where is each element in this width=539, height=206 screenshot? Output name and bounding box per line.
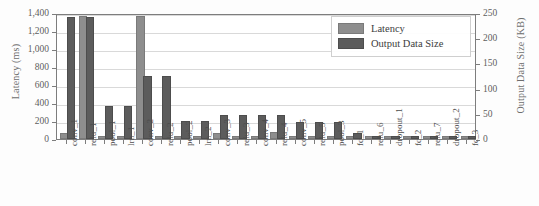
x-tick-mark: [352, 140, 353, 144]
y-tick-mark-left: [52, 32, 56, 33]
y-tick-label-left: 200: [5, 117, 49, 127]
x-tick-mark: [466, 140, 467, 144]
y-tick-label-right: 50: [483, 110, 523, 120]
x-tick-label: relu_1: [88, 122, 98, 146]
x-tick-label: fc_2: [413, 130, 423, 146]
y-tick-label-right: 150: [483, 59, 523, 69]
legend-label-output-data-size: Output Data Size: [371, 38, 443, 49]
legend-swatch-output-data-size: [338, 38, 364, 49]
x-tick-mark: [276, 140, 277, 144]
x-tick-label: lrn_1: [126, 127, 136, 147]
bar-group: [305, 15, 324, 139]
x-tick-label: pool_3: [336, 120, 346, 146]
x-tick-mark: [409, 140, 410, 144]
x-tick-mark: [123, 140, 124, 144]
x-tick-mark: [428, 140, 429, 144]
x-tick-label: pool_1: [107, 120, 117, 146]
y-tick-mark-left: [52, 122, 56, 123]
x-tick-label: pool_2: [184, 120, 194, 146]
legend-label-latency: Latency: [371, 23, 405, 34]
y-tick-mark-right: [476, 64, 480, 65]
x-tick-label: conv_3: [222, 119, 232, 146]
x-tick-label: relu_6: [375, 122, 385, 146]
legend-swatch-latency: [338, 23, 364, 34]
x-tick-label: lrn_2: [203, 127, 213, 147]
y-tick-mark-left: [52, 104, 56, 105]
legend-item-output-data-size: Output Data Size: [338, 36, 464, 51]
y-tick-label-left: 400: [5, 99, 49, 109]
y-tick-mark-left: [52, 86, 56, 87]
x-tick-label: conv_1: [69, 119, 79, 146]
bar-group: [152, 15, 171, 139]
bar-group: [114, 15, 133, 139]
x-tick-mark: [66, 140, 67, 144]
x-tick-mark: [447, 140, 448, 144]
y-tick-label-left: 600: [5, 81, 49, 91]
x-tick-label: relu_4: [279, 122, 289, 146]
y-tick-label-right: 200: [483, 34, 523, 44]
y-tick-mark-left: [52, 14, 56, 15]
x-tick-label: fc_1: [355, 130, 365, 146]
x-tick-mark: [142, 140, 143, 144]
y-tick-mark-left: [52, 68, 56, 69]
y-tick-label-left: 1,000: [5, 45, 49, 55]
x-tick-label: relu_3: [241, 122, 251, 146]
x-tick-label: conv_2: [145, 119, 155, 146]
x-tick-mark: [161, 140, 162, 144]
y-tick-label-left: 1,200: [5, 27, 49, 37]
x-tick-label: relu_5: [317, 122, 327, 146]
x-tick-mark: [333, 140, 334, 144]
chart-figure: Latency (ms) Output Data Size (KB) 02004…: [0, 0, 539, 206]
y-tick-mark-left: [52, 140, 56, 141]
x-tick-mark: [256, 140, 257, 144]
x-tick-mark: [104, 140, 105, 144]
y-tick-mark-right: [476, 14, 480, 15]
x-tick-label: fc_3: [470, 130, 480, 146]
x-tick-label: conv_5: [298, 119, 308, 146]
y-tick-label-left: 1,400: [5, 9, 49, 19]
bar-output-data-size: [86, 17, 94, 139]
x-tick-label: conv_4: [260, 119, 270, 146]
x-tick-mark: [180, 140, 181, 144]
chart-legend: Latency Output Data Size: [331, 16, 471, 57]
x-tick-mark: [199, 140, 200, 144]
x-tick-label: dropout_1: [394, 108, 404, 146]
x-tick-mark: [237, 140, 238, 144]
y-tick-mark-right: [476, 115, 480, 116]
x-tick-label: relu_7: [432, 122, 442, 146]
legend-item-latency: Latency: [338, 21, 464, 36]
y-tick-mark-right: [476, 90, 480, 91]
y-tick-label-right: 250: [483, 9, 523, 19]
x-tick-mark: [371, 140, 372, 144]
x-tick-mark: [390, 140, 391, 144]
y-tick-label-right: 0: [483, 135, 523, 145]
x-tick-label: relu_2: [165, 122, 175, 146]
y-tick-mark-left: [52, 50, 56, 51]
y-tick-mark-right: [476, 39, 480, 40]
y-tick-label-left: 800: [5, 63, 49, 73]
x-tick-mark: [218, 140, 219, 144]
y-tick-label-right: 100: [483, 85, 523, 95]
x-tick-mark: [85, 140, 86, 144]
x-tick-label: dropout_2: [451, 108, 461, 146]
x-tick-mark: [314, 140, 315, 144]
y-tick-label-left: 0: [5, 135, 49, 145]
x-tick-mark: [295, 140, 296, 144]
